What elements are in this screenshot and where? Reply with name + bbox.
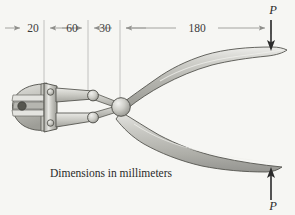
jaw-bolt: [18, 102, 26, 110]
rivet-lower: [47, 120, 54, 127]
rivet-upper: [47, 89, 54, 96]
diagram-canvas: 20 60 30 180: [0, 0, 295, 215]
link-pin-lower: [88, 112, 99, 123]
pliers-figure: 20 60 30 180: [0, 0, 295, 215]
load-label-top: P: [268, 3, 277, 17]
dimension-label-180: 180: [188, 22, 206, 34]
dimension-label-20: 20: [27, 22, 39, 34]
pivot-ball: [112, 98, 131, 117]
figure-caption: Dimensions in millimeters: [50, 167, 173, 179]
jaw-slots: [12, 95, 44, 116]
dimension-label-30: 30: [99, 22, 111, 34]
link-pin-upper: [88, 90, 99, 101]
load-label-bottom: P: [268, 199, 277, 213]
dimension-label-60: 60: [66, 22, 78, 34]
